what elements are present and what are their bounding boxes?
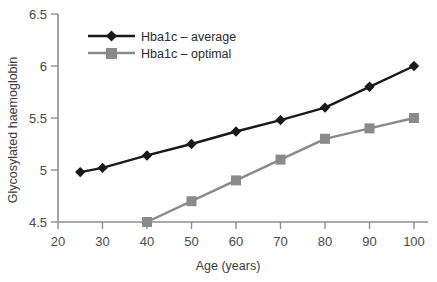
data-point-marker [142,150,152,160]
data-point-marker [365,123,375,133]
x-tick-label: 80 [318,234,332,249]
legend-label-optimal: Hba1c – optimal [141,47,231,61]
chart-figure: 4.555.566.5 2030405060708090100 Glycosyl… [0,0,437,282]
y-axis-ticks: 4.555.566.5 [29,7,58,230]
y-tick-label: 5 [40,163,47,178]
x-tick-label: 50 [184,234,198,249]
x-tick-label: 30 [95,234,109,249]
x-axis-title: Age (years) [196,259,261,273]
data-point-marker [142,217,152,227]
data-point-marker [231,126,241,136]
x-tick-label: 20 [51,234,65,249]
data-point-marker [187,196,197,206]
data-point-marker [364,82,374,92]
data-point-marker [409,113,419,123]
y-tick-label: 6 [40,59,47,74]
x-tick-label: 70 [273,234,287,249]
data-point-marker [275,115,285,125]
chart-legend: Hba1c – average Hba1c – optimal [88,30,236,61]
data-point-marker [186,139,196,149]
data-point-marker [320,134,330,144]
y-tick-label: 6.5 [29,7,47,22]
data-point-marker [75,167,85,177]
y-tick-label: 5.5 [29,111,47,126]
legend-label-average: Hba1c – average [141,30,236,44]
x-tick-label: 90 [362,234,376,249]
line-chart: 4.555.566.5 2030405060708090100 Glycosyl… [0,0,437,282]
data-point-marker [409,61,419,71]
data-point-marker [97,163,107,173]
x-tick-label: 40 [140,234,154,249]
data-point-marker [320,102,330,112]
x-axis-ticks: 2030405060708090100 [51,222,425,249]
data-series-layer [75,61,419,227]
series-line [80,66,414,172]
data-point-marker [231,175,241,185]
y-tick-label: 4.5 [29,215,47,230]
series-line [147,118,414,222]
y-axis-title: Glycosylated haemoglobin [6,57,20,204]
legend-diamond-icon [106,31,117,42]
x-tick-label: 60 [229,234,243,249]
x-tick-label: 100 [403,234,425,249]
data-point-marker [276,155,286,165]
legend-square-icon [106,48,117,59]
